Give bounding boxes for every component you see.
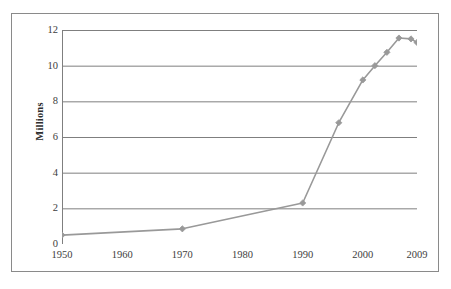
series-line <box>62 38 417 235</box>
y-tick-label: 10 <box>32 61 58 72</box>
x-tick-label: 2009 <box>395 250 439 261</box>
x-axis-tick-labels: 1950196019701980199020002009 <box>62 250 417 266</box>
x-tick-label: 1970 <box>160 250 204 261</box>
y-tick-label: 6 <box>32 132 58 143</box>
x-tick-label: 1950 <box>40 250 84 261</box>
line-chart-svg <box>62 30 417 244</box>
data-point-marker <box>62 232 65 238</box>
data-point-marker <box>336 120 342 126</box>
y-tick-label: 2 <box>32 203 58 214</box>
x-tick-label: 2000 <box>341 250 385 261</box>
x-tick-label: 1980 <box>221 250 265 261</box>
plot-area <box>62 30 417 244</box>
y-tick-label: 4 <box>32 168 58 179</box>
y-tick-label: 8 <box>32 96 58 107</box>
y-tick-label: 12 <box>32 25 58 36</box>
data-point-marker <box>179 226 185 232</box>
data-point-marker <box>300 200 306 206</box>
x-tick-label: 1960 <box>100 250 144 261</box>
x-tick-label: 1990 <box>281 250 325 261</box>
y-axis-tick-labels: 024681012 <box>28 30 58 244</box>
chart-figure: Millions 024681012 195019601970198019902… <box>0 0 451 289</box>
y-tick-label: 0 <box>32 239 58 250</box>
